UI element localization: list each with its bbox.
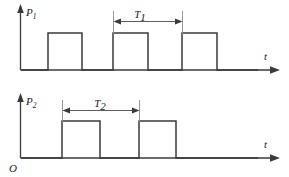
p1-axis-label: P1	[25, 6, 36, 21]
plot-top-p1: P1 t T1	[17, 4, 280, 74]
p1-waveform	[21, 33, 258, 70]
p1-vertical-axis	[17, 4, 24, 70]
p2-period-label: T2	[94, 97, 106, 112]
p1-period-dimension-arrow	[114, 18, 183, 24]
waveform-figure: P1 t T1	[0, 0, 289, 177]
plot-bottom-p2: P2 t O T2	[9, 93, 280, 174]
p2-axis-label: P2	[25, 95, 37, 110]
p2-waveform	[21, 121, 258, 158]
p1-period-label: T1	[134, 8, 146, 23]
p1-time-axis-label: t	[264, 50, 268, 62]
p2-vertical-axis	[17, 93, 24, 158]
p2-time-axis-label: t	[264, 138, 268, 150]
origin-label: O	[9, 162, 17, 174]
